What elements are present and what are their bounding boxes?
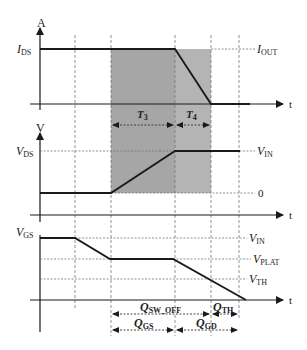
vgs-waveform: [40, 238, 246, 300]
vds-label: VDS: [16, 144, 34, 159]
time-label-2: t: [289, 209, 292, 221]
panel-gate: t VGS VIN VPLAT VTH: [16, 225, 292, 332]
axis-label-a: A: [37, 16, 46, 30]
ids-label: IDS: [16, 42, 31, 57]
q-gs-label: QGS: [134, 316, 154, 331]
time-label-3: t: [289, 294, 292, 306]
vgs-label: VGS: [16, 225, 34, 240]
vin-level-label: VIN: [249, 231, 265, 246]
iout-label: IOUT: [256, 42, 278, 57]
q-gd-label: QGD: [196, 316, 217, 331]
vth-level-label: VTH: [249, 272, 267, 287]
q-th-label: QTH: [213, 300, 234, 315]
vin-label: VIN: [257, 144, 273, 159]
time-label-1: t: [289, 98, 292, 110]
switching-waveform-diagram: A t IDS IOUT T3 T4 V t VDS VIN 0 t VGS V…: [0, 0, 307, 350]
axis-label-v: V: [36, 121, 45, 135]
zero-label: 0: [258, 187, 264, 199]
vplat-level-label: VPLAT: [253, 252, 280, 267]
